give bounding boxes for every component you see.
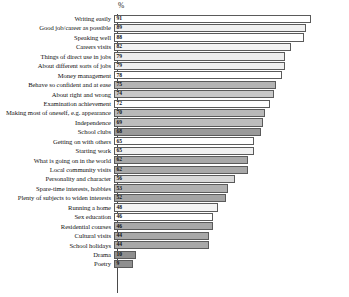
bar-category-label: School clubs bbox=[0, 127, 114, 136]
bar-track: 74 bbox=[114, 90, 349, 99]
bar-track: 62 bbox=[114, 165, 349, 174]
bar: 44 bbox=[114, 241, 209, 249]
bar-track: 89 bbox=[114, 23, 349, 32]
chart-bar-row: Residential courses46 bbox=[0, 222, 349, 231]
bar: 79 bbox=[114, 52, 285, 60]
bar-category-label: Things of direct use in jobs bbox=[0, 52, 114, 61]
bar-value-label: 53 bbox=[115, 186, 122, 192]
chart-plot-area: Writing easily91Good job/career as possi… bbox=[0, 14, 349, 269]
chart-bar-row: Careers visits82 bbox=[0, 42, 349, 51]
bar-category-label: Running a home bbox=[0, 203, 114, 212]
bar-value-label: 78 bbox=[115, 73, 122, 79]
bar: 48 bbox=[114, 203, 218, 211]
bar-track: 79 bbox=[114, 61, 349, 70]
bar: 56 bbox=[114, 175, 235, 183]
bar-value-label: 88 bbox=[115, 35, 122, 41]
bar-value-label: 48 bbox=[115, 205, 122, 211]
bar-track: 78 bbox=[114, 71, 349, 80]
chart-bar-row: About different sorts of jobs79 bbox=[0, 61, 349, 70]
chart-bar-row: Plenty of subjects to widen interests52 bbox=[0, 193, 349, 202]
bar-track: 70 bbox=[114, 108, 349, 117]
bar-track: 68 bbox=[114, 127, 349, 136]
bar-track: 10 bbox=[114, 250, 349, 259]
bar-value-label: 75 bbox=[115, 82, 122, 88]
bar-category-label: Cultural visits bbox=[0, 231, 114, 240]
chart-bar-row: Local community visits62 bbox=[0, 165, 349, 174]
bar-category-label: Poetry bbox=[0, 259, 114, 268]
bar-track: 65 bbox=[114, 137, 349, 146]
chart-bar-row: Money management78 bbox=[0, 71, 349, 80]
chart-bar-row: Independence69 bbox=[0, 118, 349, 127]
chart-bar-row: Behave so confident and at ease75 bbox=[0, 80, 349, 89]
bar: 82 bbox=[114, 43, 291, 51]
bar-category-label: Writing easily bbox=[0, 14, 114, 23]
bar-track: 52 bbox=[114, 193, 349, 202]
chart-bar-row: What is going on in the world62 bbox=[0, 156, 349, 165]
chart-bar-row: Poetry9 bbox=[0, 259, 349, 268]
bar: 46 bbox=[114, 213, 213, 221]
bar-track: 44 bbox=[114, 241, 349, 250]
bar-value-label: 9 bbox=[115, 261, 119, 267]
bar-value-label: 65 bbox=[115, 148, 122, 154]
bar: 79 bbox=[114, 62, 285, 70]
bar-track: 46 bbox=[114, 212, 349, 221]
bar-track: 75 bbox=[114, 80, 349, 89]
bar-category-label: About different sorts of jobs bbox=[0, 61, 114, 70]
bar-value-label: 65 bbox=[115, 139, 122, 145]
bar-category-label: Getting on with others bbox=[0, 137, 114, 146]
bar: 89 bbox=[114, 24, 306, 32]
bar-category-label: Good job/career as possible bbox=[0, 23, 114, 32]
bar-category-label: Money management bbox=[0, 71, 114, 80]
bar-value-label: 62 bbox=[115, 157, 122, 163]
bar-category-label: Drama bbox=[0, 250, 114, 259]
bar-value-label: 68 bbox=[115, 129, 122, 135]
bar-track: 79 bbox=[114, 52, 349, 61]
bar: 62 bbox=[114, 166, 248, 174]
chart-bar-row: Getting on with others65 bbox=[0, 137, 349, 146]
chart-bar-row: Sex education46 bbox=[0, 212, 349, 221]
bar: 52 bbox=[114, 194, 226, 202]
bar-category-label: About right and wrong bbox=[0, 90, 114, 99]
chart-bar-row: School clubs68 bbox=[0, 127, 349, 136]
bar: 53 bbox=[114, 184, 228, 192]
chart-bar-row: Starting work65 bbox=[0, 146, 349, 155]
chart-bar-row: Personality and character56 bbox=[0, 174, 349, 183]
bar: 72 bbox=[114, 100, 270, 108]
bar-category-label: Plenty of subjects to widen interests bbox=[0, 193, 114, 202]
bar: 65 bbox=[114, 147, 254, 155]
bar-track: 69 bbox=[114, 118, 349, 127]
bar-category-label: School holidays bbox=[0, 241, 114, 250]
bar-track: 53 bbox=[114, 184, 349, 193]
bar-category-label: Local community visits bbox=[0, 165, 114, 174]
horizontal-bar-chart: % Writing easily91Good job/career as pos… bbox=[0, 0, 349, 297]
bar-value-label: 74 bbox=[115, 91, 122, 97]
bar: 69 bbox=[114, 118, 263, 126]
bar: 88 bbox=[114, 33, 304, 41]
bar-value-label: 89 bbox=[115, 25, 122, 31]
chart-bar-row: Examination achievement72 bbox=[0, 99, 349, 108]
bar-category-label: Sex education bbox=[0, 212, 114, 221]
bar-value-label: 82 bbox=[115, 44, 122, 50]
chart-bar-row: Things of direct use in jobs79 bbox=[0, 52, 349, 61]
chart-bar-row: Speaking well88 bbox=[0, 33, 349, 42]
bar-track: 46 bbox=[114, 222, 349, 231]
bar-value-label: 91 bbox=[115, 16, 122, 22]
bar-value-label: 72 bbox=[115, 101, 122, 107]
bar-value-label: 44 bbox=[115, 242, 122, 248]
bar: 65 bbox=[114, 137, 254, 145]
bar-value-label: 79 bbox=[115, 54, 122, 60]
bar-track: 9 bbox=[114, 259, 349, 268]
bar-category-label: Examination achievement bbox=[0, 99, 114, 108]
chart-bar-row: Running a home48 bbox=[0, 203, 349, 212]
bar-category-label: Making most of oneself, e.g. appearance bbox=[0, 108, 114, 117]
bar-track: 72 bbox=[114, 99, 349, 108]
chart-bar-row: Drama10 bbox=[0, 250, 349, 259]
bar: 91 bbox=[114, 15, 311, 23]
bar: 46 bbox=[114, 222, 213, 230]
bar: 44 bbox=[114, 232, 209, 240]
chart-bar-row: Writing easily91 bbox=[0, 14, 349, 23]
bar-value-label: 10 bbox=[115, 252, 122, 258]
chart-bar-row: About right and wrong74 bbox=[0, 90, 349, 99]
bar: 68 bbox=[114, 128, 261, 136]
bar-category-label: Personality and character bbox=[0, 174, 114, 183]
